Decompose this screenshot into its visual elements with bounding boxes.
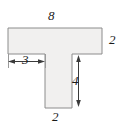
dimension-label-right-height: 2	[109, 33, 116, 46]
dimension-label-stem-height: 4	[72, 74, 79, 87]
arrowhead-stem-south	[76, 100, 81, 107]
t-shape-dimension-figure: 8 2 3 4 2	[0, 0, 132, 130]
dimension-label-top-width: 8	[48, 9, 55, 22]
t-shape-polygon	[8, 28, 102, 108]
arrowhead-left-east	[38, 59, 45, 64]
arrowhead-left-west	[8, 59, 15, 64]
arrowhead-stem-north	[76, 55, 81, 62]
dimension-label-bottom-width: 2	[52, 110, 59, 123]
figure-svg	[0, 0, 132, 130]
dimension-label-left-flange-width: 3	[22, 53, 29, 66]
